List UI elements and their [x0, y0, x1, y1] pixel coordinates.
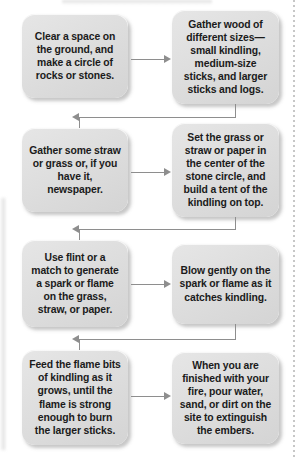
- connector-step2-to-step3-arrowhead: [72, 113, 79, 121]
- scan-edge-dotted-line: [293, 0, 295, 458]
- connector-step5-to-step6-line: [131, 284, 165, 285]
- connector-step1-to-step2-line: [131, 59, 165, 60]
- connector-step7-to-step8-line: [131, 396, 165, 397]
- flow-step-2-text: Gather wood of different sizes—small kin…: [179, 18, 272, 97]
- flow-step-5-text: Use flint or a match to generate a spark…: [29, 251, 121, 316]
- flow-step-6: Blow gently on the spark or flame as it …: [172, 244, 279, 324]
- flow-step-5: Use flint or a match to generate a spark…: [22, 240, 128, 327]
- connector-step6-to-step7-across: [79, 339, 236, 340]
- scan-edge-smudge-left: [0, 198, 5, 450]
- flow-step-4-text: Set the grass or straw or paper in the c…: [179, 131, 272, 210]
- campfire-process-flowchart: Clear a space on the ground, and make a …: [0, 0, 296, 458]
- connector-step3-to-step4-arrowhead: [164, 168, 171, 176]
- flow-step-4: Set the grass or straw or paper in the c…: [172, 123, 279, 217]
- flow-step-1: Clear a space on the ground, and make a …: [22, 14, 128, 98]
- connector-step2-to-step3-across: [79, 117, 236, 118]
- flow-step-8-text: When you are finished with your fire, po…: [179, 359, 272, 438]
- connector-step3-to-step4-line: [131, 172, 165, 173]
- flow-step-2: Gather wood of different sizes—small kin…: [172, 10, 279, 104]
- connector-step6-to-step7-down-right: [235, 324, 236, 340]
- connector-step1-to-step2-arrowhead: [164, 55, 171, 63]
- connector-step4-to-step5-arrowhead: [72, 225, 79, 233]
- flow-step-3: Gather some straw or grass or, if you ha…: [22, 128, 128, 212]
- flow-step-3-text: Gather some straw or grass or, if you ha…: [29, 144, 121, 196]
- connector-step2-to-step3-down-right: [235, 104, 236, 118]
- connector-step7-to-step8-arrowhead: [164, 392, 171, 400]
- connector-step6-to-step7-arrowhead: [72, 335, 79, 343]
- clipped-scan-artifact-top: [62, 0, 212, 5]
- connector-step5-to-step6-arrowhead: [164, 280, 171, 288]
- connector-step4-to-step5-across: [79, 229, 236, 230]
- flow-step-7: Feed the flame bits of kindling as it gr…: [22, 350, 128, 445]
- flow-step-8: When you are finished with your fire, po…: [172, 352, 279, 444]
- flow-step-6-text: Blow gently on the spark or flame as it …: [179, 264, 272, 303]
- flow-step-7-text: Feed the flame bits of kindling as it gr…: [29, 358, 121, 437]
- flow-step-1-text: Clear a space on the ground, and make a …: [29, 30, 121, 82]
